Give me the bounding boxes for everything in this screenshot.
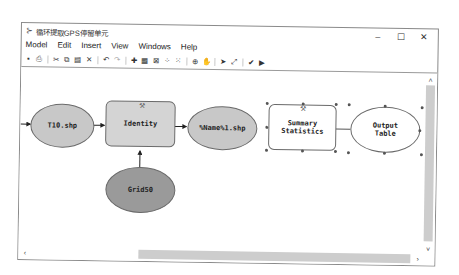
model-icon: ⊱ <box>26 26 33 35</box>
minimize-button[interactable]: – <box>368 29 388 43</box>
selection-handle[interactable] <box>347 151 350 154</box>
pan-icon[interactable]: ✋ <box>202 57 210 65</box>
toolbar-separator <box>214 58 215 66</box>
scroll-right-icon[interactable]: › <box>413 254 422 263</box>
cut-icon[interactable]: ✂ <box>52 55 60 63</box>
selection-handle[interactable] <box>420 153 423 156</box>
toolbar-separator <box>125 56 126 64</box>
delete-icon[interactable]: ✕ <box>85 56 93 64</box>
undo-icon[interactable]: ↶ <box>102 56 110 64</box>
selection-handle[interactable] <box>384 105 387 108</box>
auto-layout-icon[interactable]: ▦ <box>141 56 149 64</box>
copy-icon[interactable]: ⧉ <box>63 55 71 63</box>
selection-handle[interactable] <box>335 103 338 106</box>
scroll-up-icon[interactable]: ˄ <box>426 75 435 84</box>
selection-handle[interactable] <box>383 152 386 155</box>
menu-model[interactable]: Model <box>26 40 48 52</box>
model-builder-window: ⊱ 循环提取GPS停留单元 – ☐ ✕ Model Edit Insert Vi… <box>17 22 439 267</box>
selection-handle[interactable] <box>334 150 337 153</box>
model-canvas[interactable]: T10.shp Identity ⚒ %Name%1.shp Grid50 Su… <box>18 66 437 266</box>
node-label: Grid50 <box>128 186 153 194</box>
scroll-left-icon[interactable]: ‹ <box>20 248 29 257</box>
menu-help[interactable]: Help <box>181 43 198 55</box>
connect-icon[interactable]: ⤢ <box>230 58 238 66</box>
toolbar-separator <box>47 55 48 63</box>
node-output-table[interactable]: Output Table <box>350 106 421 153</box>
node-label: Identity <box>123 120 157 129</box>
selection-handle[interactable] <box>418 129 421 132</box>
selection-handle[interactable] <box>265 126 268 129</box>
tool-hammer-icon: ⚒ <box>300 105 306 113</box>
maximize-button[interactable]: ☐ <box>391 30 411 44</box>
node-label: T10.shp <box>48 121 78 130</box>
tool-hammer-icon: ⚒ <box>139 102 145 110</box>
close-button[interactable]: ✕ <box>414 30 434 44</box>
toolbar-separator <box>97 56 98 64</box>
menu-edit[interactable]: Edit <box>57 41 71 53</box>
run-icon[interactable]: ▶ <box>258 58 266 66</box>
node-output-name-shp[interactable]: %Name%1.shp <box>187 106 258 151</box>
toolbar-separator <box>242 58 243 66</box>
selection-handle[interactable] <box>301 149 304 152</box>
toolbar-separator <box>186 57 187 65</box>
selection-handle[interactable] <box>348 103 351 106</box>
redo-icon[interactable]: ↷ <box>113 56 121 64</box>
selection-handle[interactable] <box>421 106 424 109</box>
menu-insert[interactable]: Insert <box>81 41 101 53</box>
window-title: 循环提取GPS停留单元 <box>36 26 108 38</box>
scroll-down-icon[interactable]: ˅ <box>423 244 432 253</box>
paste-icon[interactable]: ▤ <box>74 55 82 63</box>
node-label: Output Table <box>365 121 405 138</box>
validate-icon[interactable]: ✔ <box>247 58 255 66</box>
save-icon[interactable]: ▪ <box>24 55 32 63</box>
menu-view[interactable]: View <box>111 41 128 53</box>
node-grid50[interactable]: Grid50 <box>105 166 176 213</box>
fixed-zoom-in-icon[interactable]: ⁘ <box>163 57 171 65</box>
selection-handle[interactable] <box>266 102 269 105</box>
fixed-zoom-out-icon[interactable]: ⁙ <box>174 57 182 65</box>
node-label: Summary Statistics <box>277 119 327 136</box>
menu-windows[interactable]: Windows <box>138 42 171 55</box>
connector-lines <box>18 67 437 266</box>
print-icon[interactable]: ⎙ <box>35 55 43 63</box>
node-label: %Name%1.shp <box>199 124 245 133</box>
selection-handle[interactable] <box>302 102 305 105</box>
add-data-icon[interactable]: ✚ <box>130 56 138 64</box>
full-extent-icon[interactable]: ⊠ <box>152 57 160 65</box>
select-icon[interactable]: ➤ <box>219 58 227 66</box>
node-t10-shp[interactable]: T10.shp <box>30 103 95 148</box>
selection-handle[interactable] <box>265 149 268 152</box>
toolbar: ▪ ⎙ ✂ ⧉ ▤ ✕ ↶ ↷ ✚ ▦ ⊠ ⁘ ⁙ ⊕ ✋ ➤ ⤢ ✔ ▶ <box>24 53 266 68</box>
zoom-in-icon[interactable]: ⊕ <box>191 57 199 65</box>
